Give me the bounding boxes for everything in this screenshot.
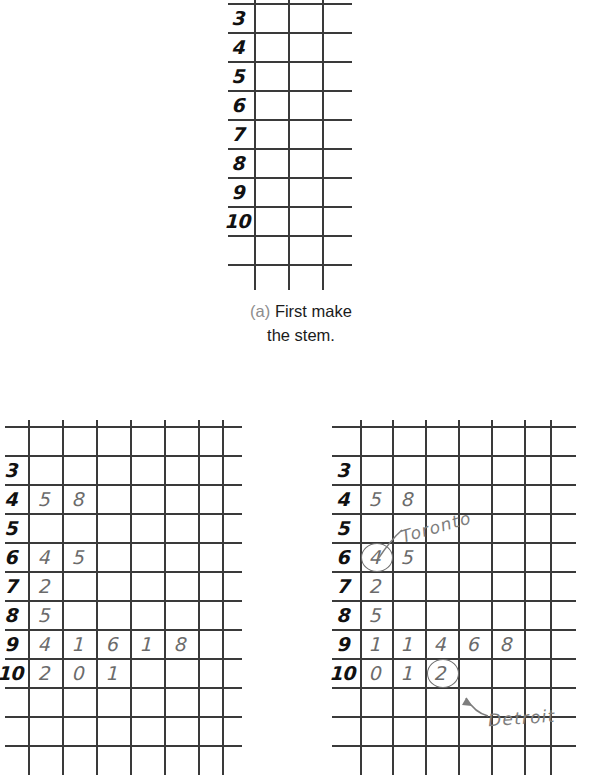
- stem-value: 10: [0, 658, 28, 687]
- grid-vertical-line: [425, 420, 427, 775]
- leaf-digit: 1: [140, 633, 153, 655]
- stem-digit: 10: [225, 210, 252, 232]
- leaf-value: 4: [28, 629, 62, 658]
- leaf-value: 0: [62, 658, 96, 687]
- stem-digit: 3: [232, 7, 246, 29]
- leaf-value: 1: [96, 658, 130, 687]
- grid-vertical-line: [222, 420, 224, 775]
- stem-digit: 5: [337, 517, 351, 539]
- stem-value: 9: [328, 629, 360, 658]
- stem-value: 6: [224, 90, 254, 119]
- leaf-digit: 4: [38, 633, 51, 655]
- stem-digit: 7: [337, 575, 351, 597]
- stem-value: 9: [0, 629, 28, 658]
- stem-digit: 6: [232, 94, 246, 116]
- grid-vertical-line: [96, 420, 98, 775]
- stem-digit: 4: [5, 488, 19, 510]
- stem-digit: 7: [5, 575, 19, 597]
- caption-a-line1: First make: [275, 302, 352, 320]
- leaf-value: 2: [425, 658, 458, 687]
- grid-vertical-line: [254, 0, 256, 290]
- panel-a-stem-grid: 345678910: [0, 0, 596, 290]
- leaf-value: 5: [62, 542, 96, 571]
- leaf-value: 4: [28, 542, 62, 571]
- leaf-value: 2: [28, 571, 62, 600]
- grid-horizontal-line: [5, 455, 242, 457]
- stem-value: 8: [328, 600, 360, 629]
- grid-vertical-line: [288, 0, 290, 290]
- stem-value: 3: [0, 455, 28, 484]
- leaf-value: 1: [130, 629, 164, 658]
- stem-digit: 8: [5, 604, 19, 626]
- stem-value: 8: [0, 600, 28, 629]
- stem-digit: 9: [337, 633, 351, 655]
- grid-horizontal-line: [5, 513, 242, 515]
- leaf-digit: 1: [369, 633, 382, 655]
- leaf-digit: 5: [38, 488, 51, 510]
- leaf-digit: 6: [468, 633, 481, 655]
- leaf-value: 5: [360, 484, 392, 513]
- leaf-value: 1: [392, 629, 425, 658]
- stem-digit: 10: [330, 662, 357, 684]
- leaf-digit: 2: [369, 575, 382, 597]
- stem-value: 6: [328, 542, 360, 571]
- stem-digit: 6: [5, 546, 19, 568]
- stem-value: 4: [328, 484, 360, 513]
- leaf-value: 2: [28, 658, 62, 687]
- grid-horizontal-line: [5, 426, 242, 428]
- leaf-value: 5: [28, 600, 62, 629]
- leaf-value: 1: [62, 629, 96, 658]
- stem-value: 8: [224, 148, 254, 177]
- leaf-value: 8: [62, 484, 96, 513]
- stem-digit: 7: [232, 123, 246, 145]
- leaf-value: 2: [360, 571, 392, 600]
- caption-a-label: (a): [250, 302, 270, 320]
- leaf-digit: 4: [435, 633, 448, 655]
- stem-value: 5: [328, 513, 360, 542]
- leaf-digit: 5: [369, 604, 382, 626]
- stem-value: 3: [224, 3, 254, 32]
- stem-digit: 9: [232, 181, 246, 203]
- stem-digit: 6: [337, 546, 351, 568]
- grid-horizontal-line: [5, 687, 242, 689]
- stem-digit: 3: [337, 459, 351, 481]
- leaf-digit: 8: [174, 633, 187, 655]
- leaf-digit: 5: [38, 604, 51, 626]
- leaf-digit: 1: [72, 633, 85, 655]
- stem-value: 5: [224, 61, 254, 90]
- leaf-digit: 0: [369, 662, 382, 684]
- stem-digit: 5: [5, 517, 19, 539]
- leaf-digit: 4: [38, 546, 51, 568]
- stem-digit: 3: [5, 459, 19, 481]
- grid-vertical-line: [322, 0, 324, 290]
- leaf-value: 5: [28, 484, 62, 513]
- stem-value: 3: [328, 455, 360, 484]
- grid-horizontal-line: [5, 716, 242, 718]
- grid-vertical-line: [62, 420, 64, 775]
- stem-value: 4: [224, 32, 254, 61]
- stem-value: 10: [224, 206, 254, 235]
- grid-horizontal-line: [228, 235, 352, 237]
- stem-value: 7: [224, 119, 254, 148]
- stem-digit: 4: [337, 488, 351, 510]
- stem-digit: 9: [5, 633, 19, 655]
- leaf-value: 1: [360, 629, 392, 658]
- grid-horizontal-line: [228, 264, 352, 266]
- stem-digit: 10: [0, 662, 25, 684]
- leaf-digit: 2: [38, 662, 51, 684]
- stem-value: 6: [0, 542, 28, 571]
- leaf-digit: 8: [501, 633, 514, 655]
- leader-line-toronto: [370, 525, 430, 575]
- leaf-value: 8: [491, 629, 524, 658]
- caption-a-line2: the stem.: [267, 326, 335, 344]
- leaf-value: 8: [392, 484, 425, 513]
- stem-value: 7: [0, 571, 28, 600]
- grid-horizontal-line: [332, 455, 576, 457]
- leaf-value: 6: [96, 629, 130, 658]
- grid-vertical-line: [392, 420, 394, 775]
- leaf-digit: 2: [435, 662, 448, 684]
- leader-arrow-detroit: [448, 692, 508, 737]
- leaf-digit: 6: [106, 633, 119, 655]
- leaf-digit: 5: [369, 488, 382, 510]
- stem-digit: 4: [232, 36, 246, 58]
